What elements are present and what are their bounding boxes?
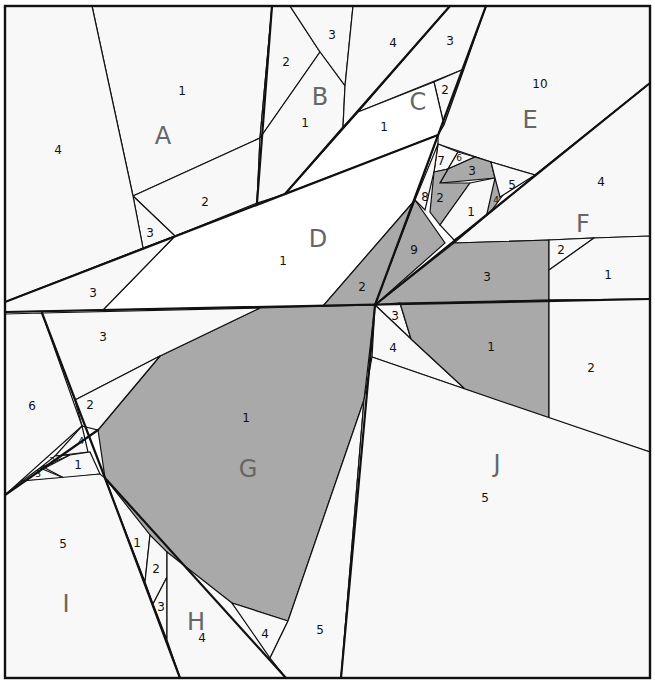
piece-number: 1 xyxy=(279,254,287,268)
piece-number: 1 xyxy=(487,340,495,354)
piece-number: 7 xyxy=(437,154,445,168)
piece-number: 3 xyxy=(328,28,336,42)
piece-number: 6 xyxy=(456,153,462,163)
section-label-J: J xyxy=(491,450,500,478)
piece-number: 2 xyxy=(358,280,366,294)
piece-number: 1 xyxy=(380,120,388,134)
piece-number: 1 xyxy=(242,411,250,425)
section-label-F: F xyxy=(576,210,590,238)
piece-number: 4 xyxy=(54,143,62,157)
piece-number: 2 xyxy=(436,191,444,205)
section-label-C: C xyxy=(410,88,427,116)
piece-number: 5 xyxy=(481,491,489,505)
piece-number: 2 xyxy=(86,398,94,412)
section-label-H: H xyxy=(187,608,205,636)
piece-number: 9 xyxy=(410,243,418,257)
section-label-G: G xyxy=(239,455,258,483)
section-label-D: D xyxy=(309,225,327,253)
piece-number: 3 xyxy=(89,286,97,300)
piece-number: 3 xyxy=(157,600,165,614)
piece-number: 4 xyxy=(78,436,84,446)
piece-number: 3 xyxy=(468,164,476,178)
piece-number: 3 xyxy=(483,270,491,284)
section-label-I: I xyxy=(62,590,69,618)
piece-number: 1 xyxy=(467,205,475,219)
piece-number: 2 xyxy=(441,83,449,97)
piece-number: 4 xyxy=(597,175,605,189)
piece-number: 4 xyxy=(389,36,397,50)
piece-number: 1 xyxy=(178,84,186,98)
piece-number: 6 xyxy=(28,399,36,413)
piece-number: 3 xyxy=(99,330,107,344)
piece-number: 8 xyxy=(421,190,429,204)
piece-number: 5 xyxy=(508,178,516,192)
piece-number: 4 xyxy=(493,195,499,205)
piece-number: 1 xyxy=(604,268,612,282)
piece-number: 2 xyxy=(587,361,595,375)
piece-number: 4 xyxy=(389,341,397,355)
piece-number: 2 xyxy=(152,562,160,576)
section-label-E: E xyxy=(522,106,537,134)
pattern-diagram: 1234231432113291076382145432113264213512… xyxy=(0,0,655,682)
piece-number: 5 xyxy=(316,623,324,637)
piece-number: 1 xyxy=(74,458,82,472)
piece-number: 2 xyxy=(282,55,290,69)
piece-number: 10 xyxy=(532,77,547,91)
piece-number: 2 xyxy=(49,456,55,466)
piece-number: 4 xyxy=(261,627,269,641)
piece-number: 5 xyxy=(59,537,67,551)
section-label-B: B xyxy=(312,83,328,111)
piece-number: 3 xyxy=(35,469,41,479)
section-label-A: A xyxy=(155,122,172,150)
pattern-canvas: 1234231432113291076382145432113264213512… xyxy=(0,0,655,682)
piece-number: 3 xyxy=(146,226,154,240)
piece-number: 3 xyxy=(391,309,399,323)
piece-number: 3 xyxy=(446,34,454,48)
piece-number: 2 xyxy=(557,243,565,257)
piece-number: 1 xyxy=(133,536,141,550)
piece-number: 2 xyxy=(201,195,209,209)
piece-number: 1 xyxy=(301,116,309,130)
